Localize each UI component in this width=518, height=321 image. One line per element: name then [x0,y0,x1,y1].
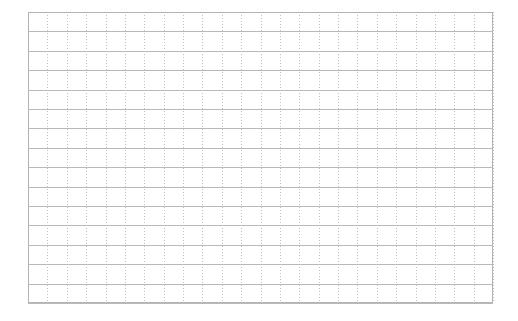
gridline-horizontal [28,303,493,304]
gridline-vertical [493,12,494,303]
grid-area[interactable] [28,12,493,303]
grid-content [28,12,493,303]
screenshot-canvas [0,0,518,321]
